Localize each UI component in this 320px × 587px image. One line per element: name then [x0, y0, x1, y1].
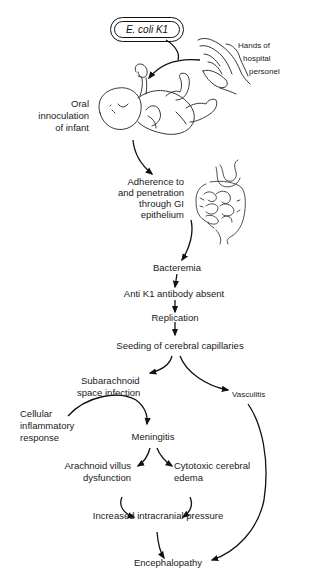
oral-label-line2: innoculation	[38, 110, 89, 121]
arachnoid-label-line1: Arachnoid villus	[64, 460, 131, 471]
antibody-absent-node: Anti K1 antibody absent	[104, 288, 244, 299]
intestine-illustration	[196, 160, 245, 244]
cellular-label-line3: response	[20, 432, 59, 443]
adherence-label-line3: through GI	[139, 198, 184, 209]
vasculitis-node: Vasculitis	[232, 389, 265, 400]
cytotoxic-label-line1: Cytotoxic cerebral	[174, 460, 250, 471]
hands-label-line2: hospital	[243, 53, 271, 64]
ecoli-capsule-node: E. coli K1	[110, 17, 184, 42]
encephalopathy-node: Encephalopathy	[126, 557, 210, 568]
hands-label-line1: Hands of	[238, 40, 270, 51]
cellular-label-line1: Cellular	[20, 408, 52, 419]
arachnoid-label-line2: dysfunction	[83, 472, 131, 483]
cytotoxic-label-line2: edema	[174, 472, 203, 483]
oral-label-line3: of infant	[55, 122, 89, 133]
replication-node: Replication	[130, 312, 220, 323]
infant-illustration	[99, 64, 217, 134]
icp-node: Increased intracranial pressure	[80, 510, 236, 521]
adherence-label-line2: and penetration	[118, 187, 184, 198]
adherence-label-line4: epithelium	[141, 209, 184, 220]
subarachnoid-label-line1: Subarachnoid	[81, 375, 140, 386]
meningitis-node: Meningitis	[120, 431, 186, 442]
adherence-label-line1: Adherence to	[127, 176, 184, 187]
cellular-label-line2: inflammatory	[20, 420, 74, 431]
seeding-node: Seeding of cerebral capillaries	[100, 340, 260, 351]
subarachnoid-label-line2: space infection	[77, 387, 140, 398]
bacteremia-node: Bacteremia	[130, 262, 224, 273]
oral-label-line1: Oral	[71, 98, 89, 109]
ecoli-label: E. coli K1	[114, 21, 180, 38]
hands-label-line3: personel	[249, 66, 280, 77]
